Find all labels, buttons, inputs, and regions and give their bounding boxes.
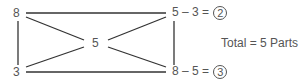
diag-top-right (108, 17, 166, 40)
bottom-right-expr: 8 – 5 = (172, 64, 209, 78)
total-label: Total = 5 Parts (221, 37, 298, 49)
top-right-result: 2 (213, 6, 227, 20)
diag-bottom-right (108, 47, 166, 67)
diag-top-left (26, 17, 84, 40)
top-right-expr: 5 – 3 = (172, 5, 209, 19)
bottom-right-result: 3 (213, 65, 227, 79)
bottom-right-equation: 8 – 5 = 3 (172, 65, 227, 79)
diag-bottom-left (26, 47, 84, 67)
bottom-left-number: 3 (13, 66, 20, 78)
top-left-number: 8 (13, 7, 20, 19)
center-number: 5 (92, 37, 99, 49)
top-right-equation: 5 – 3 = 2 (172, 6, 227, 20)
